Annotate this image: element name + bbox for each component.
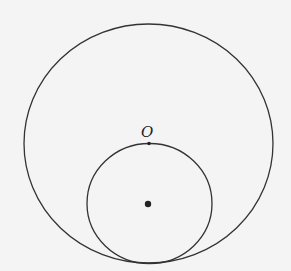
small-circle-center-dot xyxy=(145,201,151,207)
tangent-circles-diagram: O xyxy=(0,0,291,271)
point-o-label: O xyxy=(141,123,153,141)
point-o-dot xyxy=(147,142,151,146)
